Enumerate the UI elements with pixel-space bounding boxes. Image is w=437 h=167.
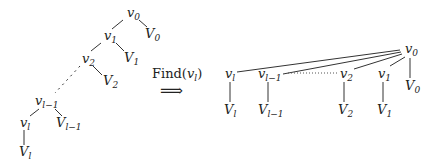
right-subtree-V1: V1	[377, 102, 392, 119]
path-compression-diagram: v0 V0 v1 V1 v2 V2 vl−1 Vl−1 vl Vl Find(v…	[0, 0, 437, 167]
right-node-v0: v0	[405, 41, 418, 58]
left-subtree-V2: V2	[103, 73, 118, 90]
left-subtree-Vlm1: Vl−1	[56, 115, 82, 132]
left-subtree-V1: V1	[124, 50, 139, 67]
left-subtree-V0: V0	[145, 26, 160, 43]
right-subtree-Vl: Vl	[224, 102, 236, 119]
left-node-v1: v1	[104, 28, 117, 45]
left-tree-edges	[24, 20, 147, 145]
implies-arrow-icon: ⟹	[160, 81, 183, 100]
left-node-vlm1: vl−1	[35, 93, 59, 110]
right-subtree-V0: V0	[405, 78, 420, 95]
right-node-v1: v1	[378, 66, 391, 83]
right-node-vlm1: vl−1	[258, 66, 282, 83]
right-subtree-Vlm1: Vl−1	[258, 102, 284, 119]
left-node-v0: v0	[127, 5, 140, 22]
left-node-v2: v2	[82, 51, 95, 68]
right-node-vl: vl	[225, 66, 235, 83]
left-subtree-Vl: Vl	[19, 144, 31, 161]
right-subtree-V2: V2	[338, 102, 353, 119]
right-node-v2: v2	[340, 66, 353, 83]
left-node-vl: vl	[20, 115, 30, 132]
